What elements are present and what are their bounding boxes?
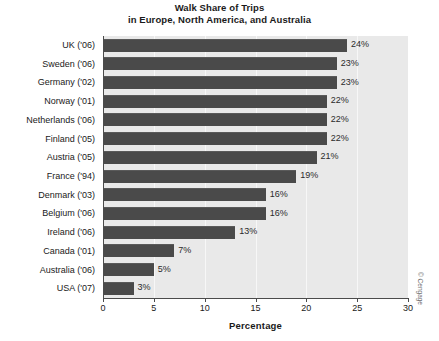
y-axis-labels: UK ('06)Sweden ('06)Germany ('02)Norway … — [0, 36, 99, 298]
chart-title-line-2: in Europe, North America, and Australia — [0, 14, 439, 26]
bar-row: 19% — [103, 167, 408, 186]
bar[interactable] — [103, 132, 327, 145]
y-axis-label: Germany ('02) — [0, 73, 95, 92]
bar-row: 3% — [103, 279, 408, 298]
copyright-credit: © Cengage — [417, 272, 424, 305]
bar-value-label: 5% — [158, 263, 171, 276]
x-axis-tick — [256, 299, 257, 302]
bar-value-label: 16% — [270, 188, 288, 201]
bar-value-label: 21% — [321, 150, 339, 163]
x-axis-title: Percentage — [103, 320, 408, 331]
bar[interactable] — [103, 170, 296, 183]
x-axis-tick-label: 20 — [301, 303, 311, 313]
bar-row: 7% — [103, 242, 408, 261]
x-axis-tick — [408, 299, 409, 302]
bar-row: 23% — [103, 55, 408, 74]
bar-row: 13% — [103, 223, 408, 242]
bar-value-label: 22% — [331, 113, 349, 126]
y-axis-label: UK ('06) — [0, 36, 95, 55]
chart-title: Walk Share of Trips in Europe, North Ame… — [0, 2, 439, 25]
x-axis-tick-label: 25 — [352, 303, 362, 313]
bar[interactable] — [103, 57, 337, 70]
bar-row: 22% — [103, 92, 408, 111]
bar-row: 22% — [103, 130, 408, 149]
bar-value-label: 23% — [341, 57, 359, 70]
x-axis-tick-label: 10 — [200, 303, 210, 313]
bar-value-label: 24% — [351, 38, 369, 51]
x-axis-tick-label: 5 — [151, 303, 156, 313]
y-axis-label: France ('94) — [0, 167, 95, 186]
x-axis-tick-label: 30 — [403, 303, 413, 313]
bar-row: 22% — [103, 111, 408, 130]
bar[interactable] — [103, 39, 347, 52]
plot-area: 24%23%23%22%22%22%21%19%16%16%13%7%5%3% — [103, 36, 408, 298]
bar[interactable] — [103, 226, 235, 239]
y-axis-label: Netherlands ('06) — [0, 111, 95, 130]
bar-value-label: 16% — [270, 207, 288, 220]
bar-value-label: 3% — [138, 281, 151, 294]
x-axis-tick — [306, 299, 307, 302]
bar[interactable] — [103, 282, 134, 295]
y-axis-label: USA ('07) — [0, 279, 95, 298]
bar-value-label: 19% — [300, 169, 318, 182]
y-axis-label: Canada ('01) — [0, 242, 95, 261]
bar[interactable] — [103, 263, 154, 276]
x-axis-tick — [205, 299, 206, 302]
y-axis-label: Norway ('01) — [0, 92, 95, 111]
bar-row: 24% — [103, 36, 408, 55]
y-axis-label: Ireland ('06) — [0, 223, 95, 242]
bar[interactable] — [103, 188, 266, 201]
chart-title-line-1: Walk Share of Trips — [0, 2, 439, 14]
x-axis-tick — [154, 299, 155, 302]
y-axis-label: Denmark ('03) — [0, 186, 95, 205]
x-axis-tick-label: 0 — [100, 303, 105, 313]
bar-value-label: 22% — [331, 132, 349, 145]
y-axis-line — [103, 36, 104, 299]
y-axis-label: Belgium ('06) — [0, 204, 95, 223]
bar-row: 23% — [103, 73, 408, 92]
bar-row: 5% — [103, 261, 408, 280]
bar-row: 16% — [103, 186, 408, 205]
bar[interactable] — [103, 151, 317, 164]
bar-value-label: 13% — [239, 225, 257, 238]
bar[interactable] — [103, 244, 174, 257]
bar-row: 21% — [103, 148, 408, 167]
bar[interactable] — [103, 95, 327, 108]
y-axis-label: Austria ('05) — [0, 148, 95, 167]
bar[interactable] — [103, 207, 266, 220]
bar[interactable] — [103, 76, 337, 89]
bar-value-label: 22% — [331, 94, 349, 107]
bar-value-label: 7% — [178, 244, 191, 257]
bar-row: 16% — [103, 204, 408, 223]
x-axis-tick-label: 15 — [250, 303, 260, 313]
y-axis-label: Sweden ('06) — [0, 55, 95, 74]
x-axis-tick — [103, 299, 104, 302]
y-axis-label: Finland ('05) — [0, 130, 95, 149]
bar[interactable] — [103, 113, 327, 126]
y-axis-label: Australia ('06) — [0, 261, 95, 280]
x-axis-tick — [357, 299, 358, 302]
bar-value-label: 23% — [341, 76, 359, 89]
